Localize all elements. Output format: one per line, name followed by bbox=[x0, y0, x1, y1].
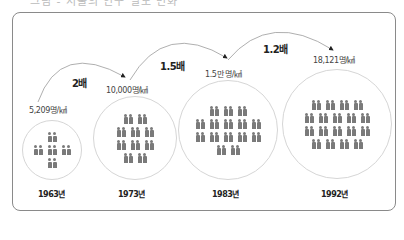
people-pair-icon bbox=[117, 127, 126, 137]
people-pair-icon bbox=[326, 139, 335, 149]
person-icon bbox=[215, 106, 219, 116]
person-icon bbox=[224, 119, 228, 129]
icon-row bbox=[312, 100, 363, 110]
person-icon bbox=[48, 158, 52, 168]
person-icon bbox=[333, 113, 337, 123]
person-icon bbox=[317, 139, 321, 149]
year-label-1963: 1963년 bbox=[38, 188, 65, 199]
person-icon bbox=[201, 132, 205, 142]
person-icon bbox=[201, 119, 205, 129]
icon-row bbox=[117, 140, 154, 150]
person-icon bbox=[257, 119, 261, 129]
person-icon bbox=[326, 100, 330, 110]
person-icon bbox=[229, 132, 233, 142]
people-pair-icon bbox=[224, 119, 233, 129]
person-icon bbox=[150, 140, 154, 150]
person-icon bbox=[229, 106, 233, 116]
person-icon bbox=[238, 106, 242, 116]
person-icon bbox=[210, 132, 214, 142]
people-pair-icon bbox=[145, 127, 154, 137]
person-icon bbox=[143, 114, 147, 124]
people-pair-icon bbox=[210, 132, 219, 142]
people-pair-icon bbox=[340, 139, 349, 149]
density-1973: 10,000명/㎢ bbox=[106, 84, 148, 95]
person-icon bbox=[124, 114, 128, 124]
people-pair-icon bbox=[319, 126, 328, 136]
person-icon bbox=[312, 100, 316, 110]
person-icon bbox=[324, 113, 328, 123]
icon-row bbox=[196, 119, 261, 129]
people-pair-icon bbox=[210, 106, 219, 116]
icon-row bbox=[124, 153, 147, 163]
multiplier-1-2x: 1.2배 bbox=[263, 41, 288, 56]
people-pair-icon bbox=[62, 145, 71, 155]
person-icon bbox=[310, 126, 314, 136]
people-pair-icon bbox=[333, 126, 342, 136]
year-label-1992: 1992년 bbox=[321, 188, 348, 199]
people-pair-icon bbox=[340, 100, 349, 110]
density-1992: 18,121명/㎢ bbox=[313, 54, 355, 65]
person-icon bbox=[366, 113, 370, 123]
multiplier-2x: 2배 bbox=[72, 75, 87, 90]
people-pair-icon bbox=[252, 132, 261, 142]
person-icon bbox=[136, 140, 140, 150]
person-icon bbox=[345, 100, 349, 110]
person-icon bbox=[138, 153, 142, 163]
icon-row bbox=[48, 132, 57, 142]
people-pair-icon bbox=[347, 126, 356, 136]
person-icon bbox=[150, 127, 154, 137]
multiplier-1-5x: 1.5배 bbox=[160, 58, 185, 73]
person-icon bbox=[210, 106, 214, 116]
circle-1983 bbox=[178, 80, 278, 180]
people-pair-icon bbox=[210, 119, 219, 129]
person-icon bbox=[312, 139, 316, 149]
people-pair-icon bbox=[238, 132, 247, 142]
person-icon bbox=[236, 145, 240, 155]
people-pair-icon bbox=[238, 119, 247, 129]
person-icon bbox=[48, 132, 52, 142]
person-icon bbox=[62, 145, 66, 155]
person-icon bbox=[215, 132, 219, 142]
person-icon bbox=[129, 114, 133, 124]
people-pair-icon bbox=[361, 126, 370, 136]
person-icon bbox=[196, 119, 200, 129]
people-pair-icon bbox=[217, 145, 226, 155]
density-1963: 5,209명/㎢ bbox=[29, 104, 66, 115]
person-icon bbox=[224, 132, 228, 142]
person-icon bbox=[366, 126, 370, 136]
person-icon bbox=[53, 145, 57, 155]
person-icon bbox=[359, 139, 363, 149]
person-icon bbox=[129, 153, 133, 163]
density-1983: 1.5만 명/㎢ bbox=[205, 68, 242, 79]
person-icon bbox=[326, 139, 330, 149]
icon-row bbox=[210, 106, 247, 116]
people-pair-icon bbox=[131, 127, 140, 137]
person-icon bbox=[53, 132, 57, 142]
person-icon bbox=[243, 106, 247, 116]
person-icon bbox=[243, 119, 247, 129]
person-icon bbox=[222, 145, 226, 155]
person-icon bbox=[138, 114, 142, 124]
person-icon bbox=[48, 145, 52, 155]
person-icon bbox=[131, 127, 135, 137]
person-icon bbox=[361, 126, 365, 136]
people-pair-icon bbox=[224, 132, 233, 142]
year-label-1973: 1973년 bbox=[118, 188, 145, 199]
people-pair-icon bbox=[48, 158, 57, 168]
person-icon bbox=[34, 145, 38, 155]
person-icon bbox=[340, 139, 344, 149]
people-pair-icon bbox=[224, 106, 233, 116]
person-icon bbox=[359, 100, 363, 110]
people-pair-icon bbox=[138, 153, 147, 163]
people-pair-icon bbox=[196, 132, 205, 142]
person-icon bbox=[243, 132, 247, 142]
person-icon bbox=[124, 153, 128, 163]
people-pair-icon bbox=[361, 113, 370, 123]
person-icon bbox=[122, 140, 126, 150]
person-icon bbox=[196, 132, 200, 142]
person-icon bbox=[347, 113, 351, 123]
year-label-1983: 1983년 bbox=[212, 188, 239, 199]
person-icon bbox=[331, 139, 335, 149]
person-icon bbox=[352, 126, 356, 136]
people-pair-icon bbox=[354, 139, 363, 149]
